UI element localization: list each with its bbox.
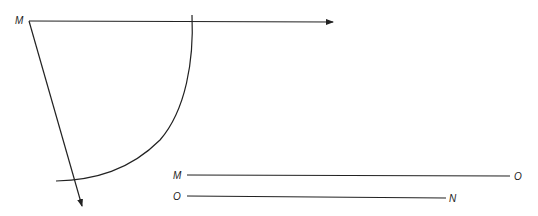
segment-on: [187, 196, 446, 198]
ray-slanted: [29, 21, 82, 206]
vertex-label-m: M: [15, 15, 24, 26]
compass-arc: [56, 15, 192, 181]
segment1-start-label: M: [173, 170, 182, 181]
diagram-svg: M M O O N: [0, 0, 538, 216]
segment2-end-label: N: [449, 193, 457, 204]
ray-horizontal: [29, 21, 333, 22]
segment2-start-label: O: [173, 191, 181, 202]
segment-mo: [187, 175, 510, 176]
geometry-construction-diagram: M M O O N: [0, 0, 538, 216]
segment1-end-label: O: [514, 171, 522, 182]
